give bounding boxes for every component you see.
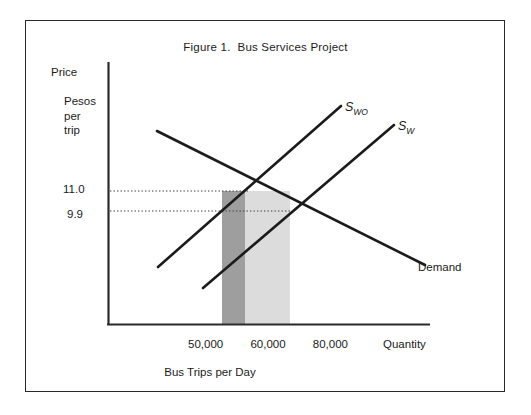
x-tick-label-50000: 50,000 — [188, 338, 223, 350]
y-tick-label-11: 11.0 — [63, 183, 85, 195]
x-axis-caption: Bus Trips per Day — [0, 366, 420, 378]
y-axis-title: Price — [51, 66, 77, 78]
figure-title: Figure 1.Bus Services Project — [0, 41, 531, 53]
figure-title-text: Bus Services Project — [238, 41, 348, 53]
x-axis-title: Quantity — [383, 338, 426, 350]
figure-page: Figure 1.Bus Services Project Price Peso… — [0, 0, 531, 415]
demand-label: Demand — [418, 261, 461, 273]
supply-without-label-sub: WO — [353, 107, 368, 117]
y-axis-unit: Pesos per trip — [64, 94, 96, 138]
x-tick-labels: 50,000 60,000 80,000 — [188, 338, 348, 350]
y-tick-label-99: 9.9 — [67, 208, 83, 220]
x-tick-label-60000: 60,000 — [250, 338, 285, 350]
y-axis-unit-line1: Pesos — [64, 94, 96, 109]
supply-without-label: SWO — [345, 100, 368, 117]
supply-with-label: SW — [398, 119, 414, 136]
y-axis-unit-line2: per — [64, 109, 96, 124]
figure-title-number: Figure 1. — [183, 41, 230, 53]
supply-with-label-sub: W — [406, 126, 414, 136]
shaded-regions — [222, 191, 290, 324]
y-axis-unit-line3: trip — [64, 123, 96, 138]
x-tick-label-80000: 80,000 — [313, 338, 348, 350]
